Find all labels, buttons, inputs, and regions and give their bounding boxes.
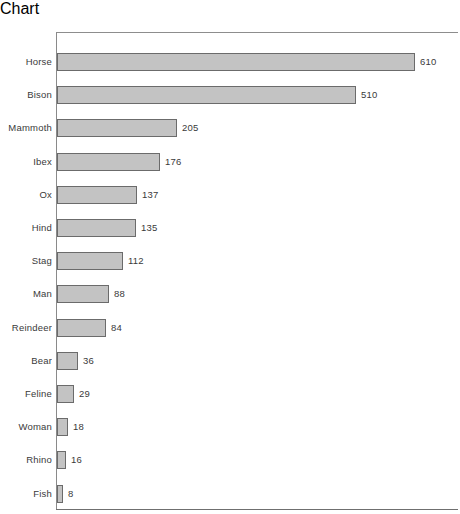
bar-row: Hind135 [0, 219, 460, 237]
category-label: Ibex [0, 153, 52, 171]
category-label: Bison [0, 86, 52, 104]
category-label: Rhino [0, 451, 52, 469]
bar-value-label: 137 [142, 186, 158, 204]
bar [57, 53, 415, 71]
bar [57, 252, 123, 270]
bar-value-label: 29 [79, 385, 90, 403]
bar [57, 451, 66, 469]
bar-value-label: 18 [73, 418, 84, 436]
category-label: Hind [0, 219, 52, 237]
bar-row: Horse610 [0, 53, 460, 71]
category-label: Bear [0, 352, 52, 370]
bar [57, 119, 177, 137]
plot-area: Horse610Bison510Mammoth205Ibex176Ox137Hi… [0, 32, 460, 510]
bar-value-label: 88 [114, 285, 125, 303]
bar-value-label: 112 [128, 252, 144, 270]
bar-value-label: 16 [71, 451, 82, 469]
bar [57, 153, 160, 171]
bar-row: Ibex176 [0, 153, 460, 171]
bar-value-label: 610 [420, 53, 436, 71]
category-label: Horse [0, 53, 52, 71]
bar-row: Feline29 [0, 385, 460, 403]
bar [57, 352, 78, 370]
bar-row: Fish8 [0, 485, 460, 503]
bar-value-label: 510 [361, 86, 377, 104]
bar [57, 285, 109, 303]
bar-row: Ox137 [0, 186, 460, 204]
category-label: Mammoth [0, 119, 52, 137]
bar-value-label: 205 [182, 119, 198, 137]
bar [57, 485, 63, 503]
bar-value-label: 84 [111, 319, 122, 337]
bar-value-label: 36 [83, 352, 94, 370]
bar-row: Bear36 [0, 352, 460, 370]
bar-row: Mammoth205 [0, 119, 460, 137]
bar-row: Woman18 [0, 418, 460, 436]
bar-row: Man88 [0, 285, 460, 303]
category-label: Woman [0, 418, 52, 436]
category-label: Stag [0, 252, 52, 270]
bar-value-label: 8 [68, 485, 73, 503]
category-label: Reindeer [0, 319, 52, 337]
bar [57, 186, 137, 204]
bar-chart: Horse610Bison510Mammoth205Ibex176Ox137Hi… [0, 18, 460, 514]
bar [57, 319, 106, 337]
bar [57, 219, 136, 237]
category-label: Fish [0, 485, 52, 503]
bar [57, 86, 356, 104]
bar-row: Stag112 [0, 252, 460, 270]
bar-row: Bison510 [0, 86, 460, 104]
bar-row: Rhino16 [0, 451, 460, 469]
category-label: Feline [0, 385, 52, 403]
bar-value-label: 135 [141, 219, 157, 237]
bar-row: Reindeer84 [0, 319, 460, 337]
bar-value-label: 176 [165, 153, 181, 171]
bar [57, 385, 74, 403]
bar [57, 418, 68, 436]
category-label: Ox [0, 186, 52, 204]
category-label: Man [0, 285, 52, 303]
